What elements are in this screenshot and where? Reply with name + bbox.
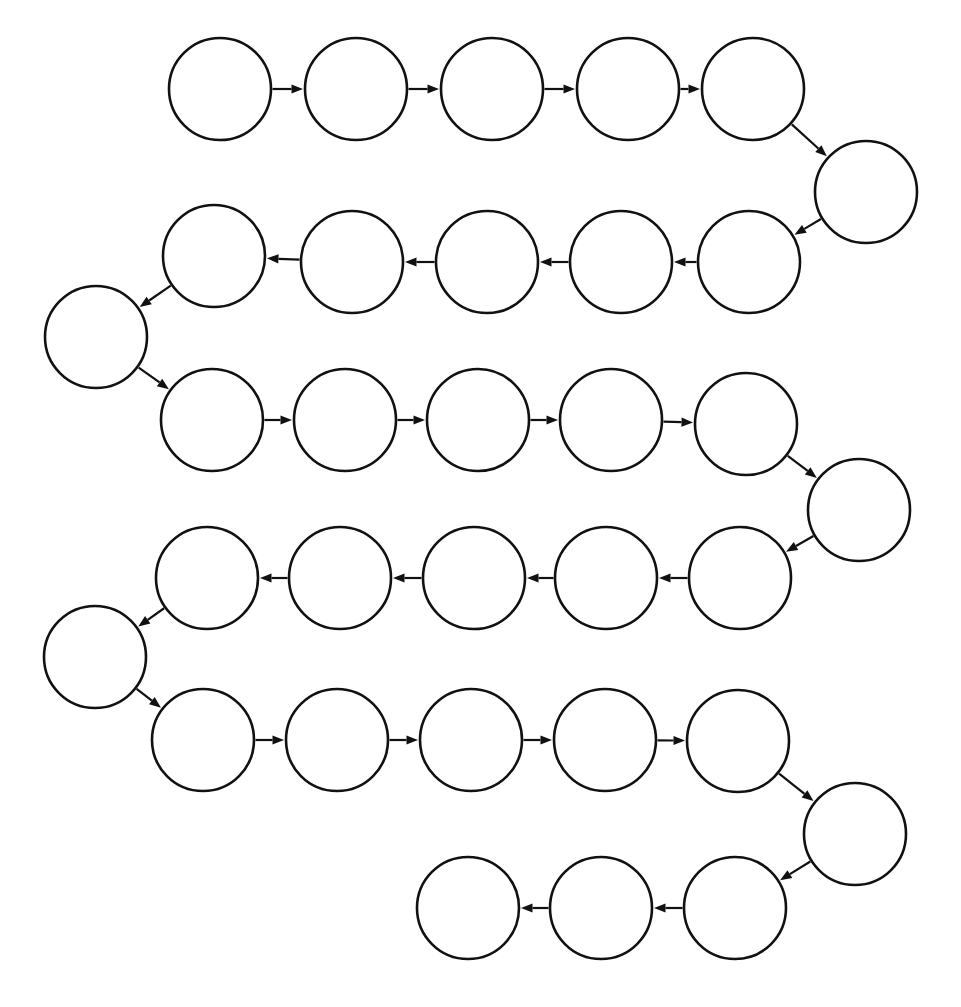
node-circle-n30[interactable] <box>804 783 906 885</box>
graph-node[interactable] <box>44 606 146 708</box>
arrowhead-icon <box>405 257 417 266</box>
graph-node[interactable] <box>555 527 657 629</box>
node-circle-n21[interactable] <box>423 527 525 629</box>
graph-node[interactable] <box>156 527 258 629</box>
node-circle-n5[interactable] <box>702 38 804 140</box>
arrowhead-icon <box>780 870 792 880</box>
graph-node[interactable] <box>161 369 263 471</box>
graph-node[interactable] <box>577 38 679 140</box>
graph-node[interactable] <box>169 38 271 140</box>
graph-node[interactable] <box>815 141 917 243</box>
node-circle-n25[interactable] <box>152 689 254 791</box>
graph-node[interactable] <box>804 783 906 885</box>
graph-node[interactable] <box>560 369 662 471</box>
graph-node[interactable] <box>423 527 525 629</box>
node-circle-n20[interactable] <box>555 527 657 629</box>
node-circle-n22[interactable] <box>289 527 391 629</box>
node-circle-n11[interactable] <box>163 205 265 307</box>
graph-node[interactable] <box>294 369 396 471</box>
node-circle-n17[interactable] <box>695 373 797 475</box>
edge-n24-to-n25 <box>137 689 161 708</box>
node-circle-n4[interactable] <box>577 38 679 140</box>
graph-node[interactable] <box>420 689 522 791</box>
arrowhead-icon <box>681 417 693 426</box>
node-circle-n10[interactable] <box>301 211 403 313</box>
node-circle-n26[interactable] <box>286 689 388 791</box>
arrowhead-icon <box>281 415 293 424</box>
node-circle-n16[interactable] <box>560 369 662 471</box>
edge-n2-to-n3 <box>409 84 440 93</box>
graph-node[interactable] <box>427 369 529 471</box>
graph-node[interactable] <box>684 857 786 959</box>
node-circle-n9[interactable] <box>436 211 538 313</box>
node-circle-n33[interactable] <box>417 857 519 959</box>
node-circle-n7[interactable] <box>698 211 800 313</box>
graph-node[interactable] <box>698 211 800 313</box>
edge-n11-to-n12 <box>140 286 171 307</box>
edge-n14-to-n15 <box>398 415 426 424</box>
node-circle-n8[interactable] <box>570 211 672 313</box>
graph-node[interactable] <box>152 689 254 791</box>
node-circle-n32[interactable] <box>550 857 652 959</box>
graph-node[interactable] <box>554 689 656 791</box>
edge-n31-to-n32 <box>654 903 683 912</box>
diagram-canvas <box>0 0 961 1007</box>
node-circle-n18[interactable] <box>808 459 910 561</box>
arrowhead-icon <box>292 84 304 93</box>
edge-n32-to-n33 <box>521 903 549 912</box>
graph-node[interactable] <box>289 527 391 629</box>
node-circle-n3[interactable] <box>441 38 543 140</box>
arrowhead-icon <box>547 415 559 424</box>
node-circle-n1[interactable] <box>169 38 271 140</box>
graph-node[interactable] <box>695 373 797 475</box>
node-circle-n23[interactable] <box>156 527 258 629</box>
graph-node[interactable] <box>305 38 407 140</box>
graph-node[interactable] <box>417 857 519 959</box>
graph-node[interactable] <box>286 689 388 791</box>
arrowhead-icon <box>273 735 285 744</box>
arrowhead-icon <box>140 297 152 307</box>
graph-node[interactable] <box>163 205 265 307</box>
node-circle-n27[interactable] <box>420 689 522 791</box>
graph-node[interactable] <box>45 286 147 388</box>
edge-n22-to-n23 <box>260 573 288 582</box>
arrowhead-icon <box>521 903 533 912</box>
arrowhead-icon <box>414 415 426 424</box>
node-circle-n28[interactable] <box>554 689 656 791</box>
edge-n18-to-n19 <box>786 536 813 552</box>
graph-node[interactable] <box>689 527 791 629</box>
edge-n17-to-n18 <box>788 456 817 478</box>
graph-node[interactable] <box>702 38 804 140</box>
graph-node[interactable] <box>570 211 672 313</box>
node-circle-n13[interactable] <box>161 369 263 471</box>
node-circle-n24[interactable] <box>44 606 146 708</box>
node-circle-n15[interactable] <box>427 369 529 471</box>
edge-n10-to-n11 <box>267 254 300 263</box>
graph-node[interactable] <box>687 690 789 792</box>
node-circle-n14[interactable] <box>294 369 396 471</box>
node-circle-n31[interactable] <box>684 857 786 959</box>
arrowhead-icon <box>564 84 576 93</box>
node-circle-n29[interactable] <box>687 690 789 792</box>
graph-node[interactable] <box>301 211 403 313</box>
graph-node[interactable] <box>550 857 652 959</box>
node-chain-svg <box>0 0 961 1007</box>
graph-node[interactable] <box>441 38 543 140</box>
arrowhead-icon <box>393 573 405 582</box>
node-circle-n12[interactable] <box>45 286 147 388</box>
node-circle-n2[interactable] <box>305 38 407 140</box>
node-circle-n6[interactable] <box>815 141 917 243</box>
edge-n12-to-n13 <box>139 368 169 390</box>
arrowhead-icon <box>673 736 685 745</box>
edge-n28-to-n29 <box>658 736 686 745</box>
arrowhead-icon <box>157 379 169 389</box>
arrowhead-icon <box>138 616 150 626</box>
graph-node[interactable] <box>808 459 910 561</box>
edge-n29-to-n30 <box>779 774 813 801</box>
graph-node[interactable] <box>436 211 538 313</box>
edge-n19-to-n20 <box>659 573 688 582</box>
arrowhead-icon <box>674 257 686 266</box>
edge-n27-to-n28 <box>524 735 553 744</box>
edge-n20-to-n21 <box>527 573 554 582</box>
node-circle-n19[interactable] <box>689 527 791 629</box>
